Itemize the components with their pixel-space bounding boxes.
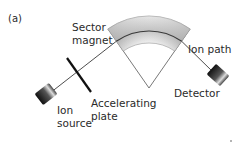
sector-magnet-label: Sector magnet (72, 21, 113, 47)
mass-spectrometer-diagram (0, 0, 240, 152)
ion-source (35, 83, 58, 105)
panel-label: (a) (8, 12, 22, 25)
detector-label: Detector (174, 87, 220, 100)
detector (207, 64, 230, 86)
ion-path-label: Ion path (188, 43, 231, 56)
accelerating-plate (67, 58, 91, 92)
sector-magnet (108, 16, 191, 88)
stray-mark (230, 140, 232, 142)
ion-source-label: Ion source (57, 104, 92, 130)
accelerating-plate-label: Accelerating plate (91, 97, 157, 123)
